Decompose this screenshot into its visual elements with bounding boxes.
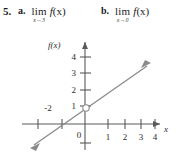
x-tick-label-3: 3 — [139, 132, 144, 142]
part-b-function: f(x) — [133, 5, 149, 17]
y-tick-label-2: 2 — [72, 85, 77, 95]
part-a-lim-word: lim — [32, 5, 47, 17]
part-b-limit-operator: lim x→0 — [115, 5, 130, 24]
y-tick-label-3: 3 — [72, 68, 77, 78]
problem-number: 5. — [3, 5, 11, 17]
coordinate-plot: f(x) x 4 3 2 1 -2 0 1 2 3 4 — [0, 28, 182, 166]
figure-container: 5. a. lim x→3 f(x) b. lim x→0 f(x) — [0, 0, 182, 166]
problem-part-a: a. lim x→3 f(x) — [18, 5, 66, 29]
x-tick-label-4: 4 — [153, 132, 158, 142]
graph-figure: f(x) x 4 3 2 1 -2 0 1 2 3 4 — [0, 28, 182, 166]
x-axis-label: x — [163, 124, 168, 134]
part-b-limit-subscript: x→0 — [115, 17, 130, 24]
x-tick-label--2: -2 — [44, 103, 52, 113]
part-a-limit-operator: lim x→3 — [32, 5, 47, 24]
problem-part-b: b. lim x→0 f(x) — [101, 5, 149, 29]
open-circle-marker — [83, 105, 89, 111]
problem-statement: 5. a. lim x→3 f(x) b. lim x→0 f(x) — [0, 0, 182, 30]
x-tick-label-1: 1 — [106, 132, 111, 142]
part-b-function-argument: (x) — [136, 5, 149, 17]
part-b-label: b. — [101, 5, 109, 16]
x-axis-arrowhead — [153, 121, 160, 127]
y-axis-label: f(x) — [48, 40, 61, 50]
part-b-limit-expression: lim x→0 f(x) — [115, 5, 149, 29]
part-a-limit-expression: lim x→3 f(x) — [32, 5, 66, 29]
part-a-function-argument: (x) — [53, 5, 66, 17]
origin-label: 0 — [77, 130, 82, 140]
y-tick-label-1: 1 — [72, 101, 77, 111]
part-a-label: a. — [18, 5, 26, 16]
part-a-function: f(x) — [50, 5, 66, 17]
part-a-limit-subscript: x→3 — [32, 17, 47, 24]
x-tick-label-2: 2 — [123, 132, 128, 142]
part-b-lim-word: lim — [115, 5, 130, 17]
y-axis-arrowhead — [82, 42, 88, 49]
y-tick-label-4: 4 — [72, 52, 77, 62]
